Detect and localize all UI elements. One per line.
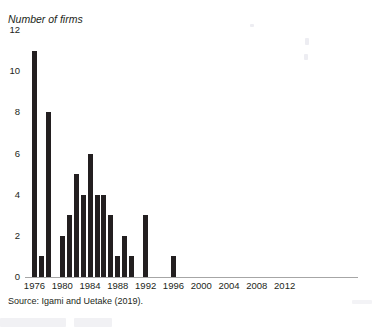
- bar: [46, 112, 51, 277]
- bar: [60, 236, 65, 277]
- source-note: Source: Igami and Uetake (2019).: [8, 296, 143, 306]
- x-axis-tick-label: 2012: [268, 280, 302, 291]
- bar: [143, 215, 148, 277]
- bar: [95, 195, 100, 277]
- bar: [108, 215, 113, 277]
- x-axis-line: [25, 277, 358, 278]
- scan-artifact-icon: [250, 24, 254, 27]
- bar: [129, 256, 134, 277]
- bar: [39, 256, 44, 277]
- scan-artifact-icon: [305, 38, 309, 45]
- scan-artifact-icon: [0, 318, 66, 327]
- scan-artifact-icon: [352, 300, 372, 304]
- scan-artifact-icon: [74, 318, 112, 327]
- bar-chart: 024681012 197619801984198819921996200020…: [0, 0, 376, 336]
- bar: [88, 154, 93, 278]
- bar: [122, 236, 127, 277]
- bar: [67, 215, 72, 277]
- bar: [101, 195, 106, 277]
- bars-layer: [0, 0, 376, 277]
- bar: [74, 174, 79, 277]
- bar: [32, 51, 37, 277]
- scan-artifact-icon: [304, 54, 308, 60]
- bar: [171, 256, 176, 277]
- bar: [81, 195, 86, 277]
- bar: [115, 256, 120, 277]
